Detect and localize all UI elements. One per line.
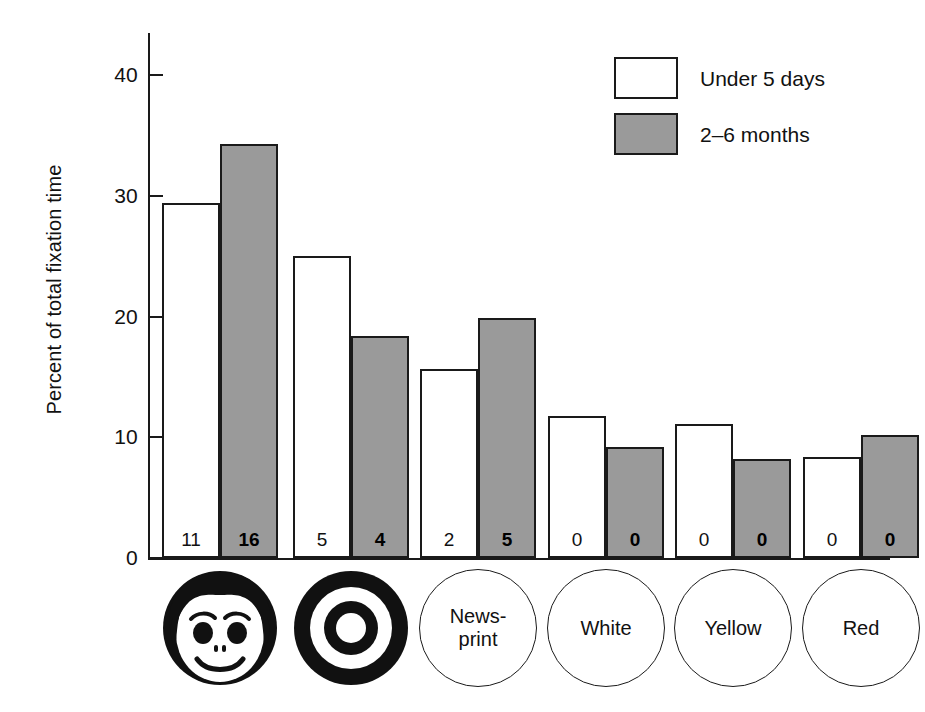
bar-count-label: 4 xyxy=(353,530,407,549)
y-tick-label-30: 30 xyxy=(78,185,138,206)
bar-bullseye-2-6-months: 4 xyxy=(351,336,409,558)
category-white: White xyxy=(544,566,668,690)
category-newsprint: News-print xyxy=(416,566,540,690)
category-icons-row: News-printWhiteYellowRed xyxy=(148,566,890,706)
bar-count-label: 11 xyxy=(164,530,218,549)
x-axis-line xyxy=(148,558,890,560)
bar-count-label: 0 xyxy=(550,530,604,549)
category-yellow: Yellow xyxy=(671,566,795,690)
bar-count-label: 5 xyxy=(295,530,349,549)
bar-group-bullseye: 54 xyxy=(293,33,409,558)
bar-group-news-print: 25 xyxy=(420,33,536,558)
face-icon xyxy=(161,569,279,687)
y-axis-title: Percent of total fixation time xyxy=(43,120,66,460)
category-circle-red: Red xyxy=(802,569,920,687)
y-tick-label-10: 10 xyxy=(78,426,138,447)
bar-count-label: 0 xyxy=(735,530,789,549)
bar-count-label: 0 xyxy=(863,530,917,549)
category-circle-white: White xyxy=(547,569,665,687)
bar-news-print-under-5-days: 2 xyxy=(420,369,478,558)
category-label-white: White xyxy=(574,617,637,640)
bar-count-label: 2 xyxy=(422,530,476,549)
y-tick-label-20: 20 xyxy=(78,306,138,327)
category-circle-yellow: Yellow xyxy=(674,569,792,687)
legend: Under 5 days 2–6 months xyxy=(614,56,825,168)
bar-count-label: 0 xyxy=(608,530,662,549)
bar-yellow-under-5-days: 0 xyxy=(675,424,733,558)
legend-item-2-6-months: 2–6 months xyxy=(614,112,825,156)
category-label-newsprint: News-print xyxy=(444,605,513,651)
bar-white-under-5-days: 0 xyxy=(548,416,606,558)
category-red: Red xyxy=(799,566,923,690)
bar-face-under-5-days: 11 xyxy=(162,203,220,558)
category-label-yellow: Yellow xyxy=(698,617,767,640)
category-bullseye xyxy=(289,566,413,690)
bar-red-under-5-days: 0 xyxy=(803,457,861,558)
legend-label-2-6-months: 2–6 months xyxy=(700,124,810,145)
bar-group-face: 1116 xyxy=(162,33,278,558)
bar-red-2-6-months: 0 xyxy=(861,435,919,558)
y-tick-label-40: 40 xyxy=(78,64,138,85)
category-label-red: Red xyxy=(837,617,886,640)
bar-count-label: 5 xyxy=(480,530,534,549)
bar-count-label: 16 xyxy=(222,530,276,549)
bar-face-2-6-months: 16 xyxy=(220,144,278,558)
category-face xyxy=(158,566,282,690)
y-tick-label-0: 0 xyxy=(78,547,138,568)
legend-swatch-light xyxy=(614,57,678,99)
legend-item-under-5-days: Under 5 days xyxy=(614,56,825,100)
bullseye-icon xyxy=(292,569,410,687)
bar-yellow-2-6-months: 0 xyxy=(733,459,791,558)
bar-white-2-6-months: 0 xyxy=(606,447,664,558)
legend-swatch-dark xyxy=(614,113,678,155)
legend-label-under-5-days: Under 5 days xyxy=(700,68,825,89)
bar-news-print-2-6-months: 5 xyxy=(478,318,536,558)
bar-count-label: 0 xyxy=(805,530,859,549)
bar-count-label: 0 xyxy=(677,530,731,549)
bar-bullseye-under-5-days: 5 xyxy=(293,256,351,558)
category-circle-newsprint: News-print xyxy=(419,569,537,687)
fixation-time-bar-chart: Percent of total fixation time 403020100… xyxy=(0,0,925,712)
